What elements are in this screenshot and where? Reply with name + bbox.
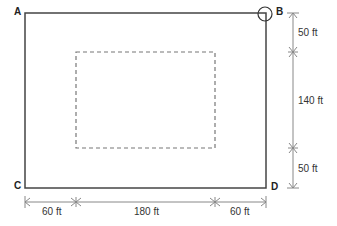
corner-label-a: A [14, 7, 21, 17]
diagram-canvas [0, 0, 337, 226]
corner-label-c: C [14, 181, 21, 191]
inner-dashed-rectangle [76, 52, 215, 148]
dim-label-left-60: 60 ft [42, 207, 61, 217]
corner-label-d: D [271, 182, 278, 192]
corner-label-b: B [276, 7, 283, 17]
corner-b-circle-icon [258, 7, 272, 21]
dim-label-right-60: 60 ft [230, 207, 249, 217]
outer-rectangle [25, 13, 266, 188]
dim-label-center-180: 180 ft [134, 207, 159, 217]
dim-label-bottom-50: 50 ft [298, 164, 317, 174]
dim-label-middle-140: 140 ft [298, 96, 323, 106]
dim-label-top-50: 50 ft [298, 28, 317, 38]
